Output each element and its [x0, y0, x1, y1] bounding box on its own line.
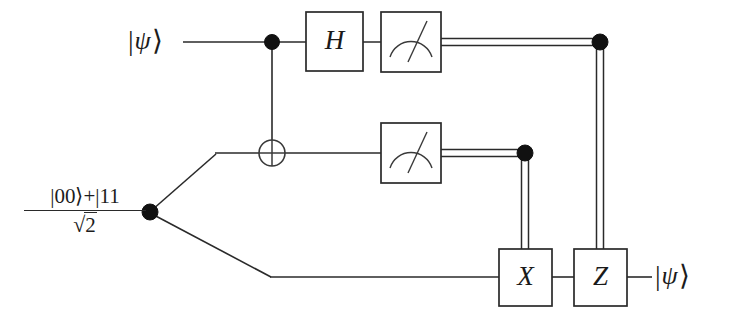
bell-branch-lower [152, 214, 271, 277]
bell-state-numerator: |00⟩+|11 [24, 186, 146, 209]
output-state-ket-angle: ⟩ [679, 260, 690, 291]
control-dot-icon-z [592, 34, 608, 50]
bell-state-denominator: √2 [24, 213, 146, 236]
measurement-gate-top[interactable] [381, 12, 441, 72]
control-dot-icon-x [517, 145, 533, 161]
output-state-symbol: ψ [661, 261, 679, 290]
bell-state-radicand: 2 [84, 212, 97, 237]
input-state-ket-angle: ⟩ [152, 25, 163, 56]
control-dot-icon-cnot [265, 35, 280, 50]
output-state-label: |ψ⟩ [655, 261, 690, 289]
quantum-circuit-figure: H X Z |ψ⟩ [0, 0, 739, 320]
bell-state-label: |00⟩+|11 √2 [24, 186, 146, 236]
gate-pauli-z-label: Z [593, 261, 609, 291]
bell-branch-upper [152, 154, 216, 210]
gate-pauli-x-label: X [516, 261, 535, 291]
circuit-canvas: H X Z [0, 0, 739, 320]
output-state-ket-bar: | [655, 260, 661, 291]
input-state-symbol: ψ [134, 26, 152, 55]
fraction-bar [24, 210, 146, 211]
gate-hadamard-label: H [324, 25, 346, 55]
input-state-label: |ψ⟩ [128, 26, 163, 54]
input-state-ket-bar: | [128, 25, 134, 56]
measurement-gate-mid[interactable] [381, 123, 441, 183]
